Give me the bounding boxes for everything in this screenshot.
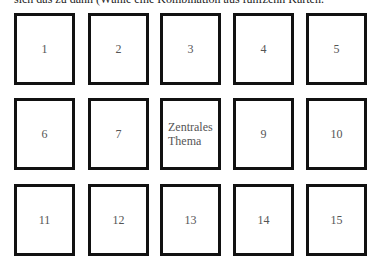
card-label: 6	[42, 127, 48, 141]
central-topic-label: Zentrales Thema	[163, 120, 218, 148]
card-label: 12	[113, 213, 125, 227]
card-label: 2	[116, 42, 122, 56]
card-label: 11	[39, 213, 51, 227]
instruction-text: sich das zu dann (Wähle eine Kombination…	[14, 0, 324, 6]
card-label: 4	[261, 42, 267, 56]
card-central-topic[interactable]: Zentrales Thema	[160, 98, 221, 170]
card-4[interactable]: 4	[233, 13, 294, 85]
card-2[interactable]: 2	[88, 13, 149, 85]
card-label: 15	[331, 213, 343, 227]
card-label: 10	[331, 127, 343, 141]
card-7[interactable]: 7	[88, 98, 149, 170]
card-12[interactable]: 12	[88, 184, 149, 256]
card-label: 5	[334, 42, 340, 56]
card-13[interactable]: 13	[160, 184, 221, 256]
card-label: 14	[258, 213, 270, 227]
card-label: 1	[42, 42, 48, 56]
card-label: 13	[185, 213, 197, 227]
central-topic-line-1: Zentrales	[168, 120, 213, 134]
central-topic-line-2: Thema	[168, 134, 201, 148]
card-6[interactable]: 6	[14, 98, 75, 170]
card-label: 3	[188, 42, 194, 56]
card-5[interactable]: 5	[306, 13, 367, 85]
card-label: 9	[261, 127, 267, 141]
card-15[interactable]: 15	[306, 184, 367, 256]
card-11[interactable]: 11	[14, 184, 75, 256]
card-label: 7	[116, 127, 122, 141]
card-1[interactable]: 1	[14, 13, 75, 85]
card-14[interactable]: 14	[233, 184, 294, 256]
card-9[interactable]: 9	[233, 98, 294, 170]
card-10[interactable]: 10	[306, 98, 367, 170]
card-3[interactable]: 3	[160, 13, 221, 85]
